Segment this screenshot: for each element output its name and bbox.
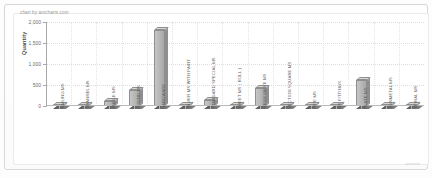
vertical-gridline [298,22,299,106]
chart-screenshot: chart by amcharts.com Quantity 05001,000… [0,0,432,178]
x-axis-category-label: GUNMETAL MS [388,77,393,109]
y-axis-tick [43,64,47,65]
vertical-gridline [222,22,223,106]
vertical-gridline [172,22,173,106]
y-axis-tick-label: 2,000 [5,19,41,25]
x-axis-tick [361,106,362,109]
vertical-gridline [273,22,274,106]
gridline [46,43,424,44]
x-axis-category-label: MS FITTINGS [337,81,342,109]
watermark-label: amcharts [405,162,420,166]
x-axis-category-label: SECTION SQUARE MS [287,62,292,109]
gridline [46,22,424,23]
x-axis-category-label: SHEET MS ( ROLL ) [237,68,242,109]
x-axis-category-label: PIPE MS [312,91,317,109]
x-axis-category-label: SILVER MS WITH PAINT [186,59,191,109]
y-axis-tick [43,43,47,44]
x-axis-category-label: MESH VALVE MS [262,73,267,109]
y-axis-tick-label: 0 [5,103,41,109]
vertical-gridline [348,22,349,106]
y-axis-tick-label: 1,500 [5,40,41,46]
x-axis-category-label: CHANNEL MS [85,80,90,109]
y-axis-tick-label: 500 [5,82,41,88]
x-axis-category-label: RAILING MS [60,83,65,109]
x-axis-tick [235,106,236,109]
vertical-gridline [96,22,97,106]
x-axis-category-label: PLATE MS [363,87,368,109]
vertical-gridline [197,22,198,106]
vertical-gridline [374,22,375,106]
vertical-gridline [399,22,400,106]
y-axis-tick [43,22,47,23]
y-axis-tick [43,85,47,86]
x-axis-category-label: STANDARD SPECIAL MS [211,57,216,109]
x-axis-tick [109,106,110,109]
x-axis-category-label: HARDWARE [161,84,166,109]
vertical-gridline [323,22,324,106]
x-axis-category-label: SPIRAL MS [413,85,418,109]
x-axis-category-label: ANGLE MS [111,86,116,109]
chart-credit-label: chart by amcharts.com [20,10,69,15]
gridline [46,64,424,65]
chart-panel: chart by amcharts.com Quantity 05001,000… [4,4,428,170]
vertical-gridline [71,22,72,106]
vertical-gridline [248,22,249,106]
vertical-gridline [122,22,123,106]
y-axis-tick-label: 1,000 [5,61,41,67]
vertical-gridline [147,22,148,106]
x-axis-category-label: ROUND MS [136,85,141,109]
y-axis-tick [43,106,47,107]
